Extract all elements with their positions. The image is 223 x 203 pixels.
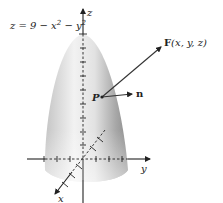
surface-equation-label: z = 9 − x2 − y2 bbox=[9, 19, 87, 31]
point-p-dot bbox=[100, 95, 103, 98]
z-axis-label: z bbox=[86, 7, 93, 18]
field-vector-label: F(x, y, z) bbox=[164, 37, 207, 48]
paraboloid-diagram: z = 9 − x2 − y2 z y x P n F(x, y, z) bbox=[0, 0, 223, 203]
field-vector-arrow bbox=[102, 47, 161, 97]
x-axis-label: x bbox=[58, 193, 64, 203]
y-axis-label: y bbox=[140, 163, 147, 174]
normal-vector-label: n bbox=[136, 88, 144, 99]
point-p-label: P bbox=[91, 92, 100, 103]
